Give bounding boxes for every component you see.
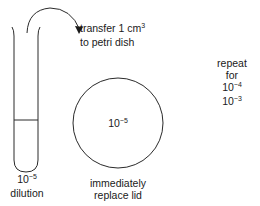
petri-dish-dilution-value: 10−5 — [100, 117, 136, 131]
petri-dish-caption: immediately replace lid — [80, 177, 156, 201]
repeat-note: repeat for 10−4 10−3 — [212, 57, 252, 109]
transfer-instruction: transfer 1 cm3 to petri dish — [80, 22, 145, 48]
transfer-arrow-icon — [27, 8, 83, 34]
test-tube-caption: 10−5 dilution — [6, 173, 48, 199]
test-tube-icon — [12, 27, 40, 172]
repeat-item: 10−3 — [212, 95, 252, 109]
repeat-item: 10−4 — [212, 81, 252, 95]
